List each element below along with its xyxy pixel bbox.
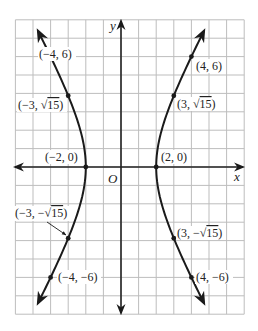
point-p5	[48, 275, 53, 280]
label-4-neg6: (4, −6)	[196, 270, 229, 284]
point-p10	[189, 275, 194, 280]
hyperbola-graph: x y O (−4, 6) (−3, √15) (−2, 0) (−3, −√1…	[0, 0, 258, 331]
leader-arrow	[47, 222, 66, 235]
label-neg2-0: (−2, 0)	[45, 150, 78, 164]
origin-label: O	[108, 171, 118, 186]
point-p2	[66, 93, 71, 98]
point-p8	[154, 165, 159, 170]
label-3-negsqrt15: (3, −√15)	[177, 226, 222, 240]
y-axis-label: y	[108, 18, 116, 33]
point-p4	[66, 236, 71, 241]
x-axis-label: x	[233, 169, 240, 184]
label-neg4-neg6: (−4, −6)	[58, 270, 98, 284]
point-labels: (−4, 6) (−3, √15) (−2, 0) (−3, −√15) (−4…	[14, 47, 233, 284]
label-neg3-sqrt15: (−3, √15)	[18, 98, 63, 112]
point-p9	[171, 236, 176, 241]
point-p6	[189, 54, 194, 59]
label-neg3-negsqrt15: (−3, −√15)	[15, 206, 67, 220]
point-p7	[171, 93, 176, 98]
point-p3	[83, 165, 88, 170]
label-2-0: (2, 0)	[161, 150, 187, 164]
label-3-sqrt15: (3, √15)	[177, 97, 216, 111]
label-neg4-6: (−4, 6)	[39, 47, 72, 61]
label-4-6: (4, 6)	[196, 59, 222, 73]
